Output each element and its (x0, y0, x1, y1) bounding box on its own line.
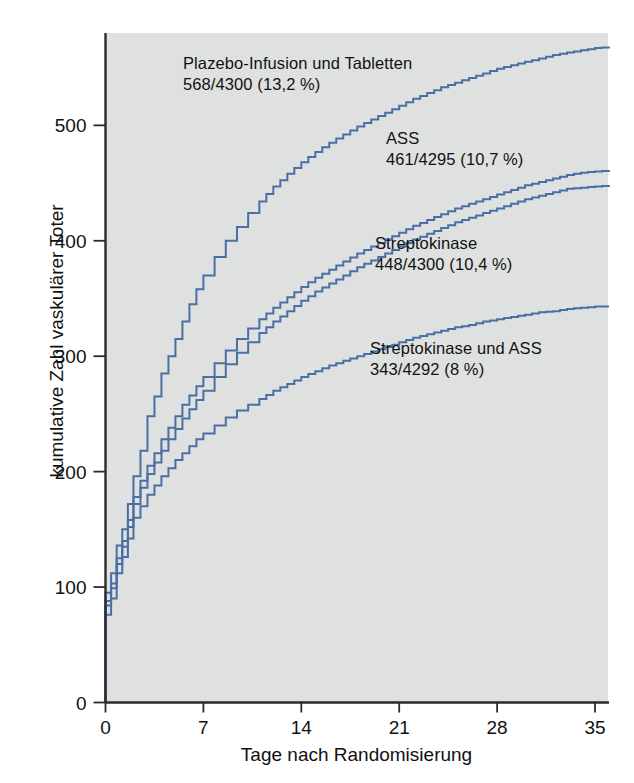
annotation-placebo-line2: 568/4300 (13,2 %) (183, 74, 412, 95)
annotation-placebo-line1: Plazebo-Infusion und Tabletten (183, 53, 412, 74)
x-axis-title: Tage nach Randomisierung (105, 744, 608, 766)
annotation-streptokinase-ass-line1: Streptokinase und ASS (370, 338, 542, 359)
x-tick-label-35: 35 (584, 717, 605, 738)
axis-ticks (94, 125, 596, 712)
series-annotation-streptokinase: Streptokinase 448/4300 (10,4 %) (375, 233, 512, 275)
annotation-ass-line2: 461/4295 (10,7 %) (386, 149, 523, 170)
x-tick-label-21: 21 (389, 717, 410, 738)
chart-canvas: 01002003004005000714212835 (0, 0, 634, 783)
annotation-streptokinase-ass-line2: 343/4292 (8 %) (370, 359, 542, 380)
series-annotation-streptokinase-ass: Streptokinase und ASS 343/4292 (8 %) (370, 338, 542, 380)
axis-tick-labels: 01002003004005000714212835 (55, 115, 606, 737)
series-line-2 (106, 185, 610, 702)
annotation-ass-line1: ASS (386, 128, 523, 149)
y-tick-label-500: 500 (55, 115, 87, 136)
chart-figure: 01002003004005000714212835 kumulative Za… (0, 0, 634, 783)
x-tick-label-0: 0 (100, 717, 111, 738)
x-tick-label-7: 7 (198, 717, 209, 738)
x-tick-label-14: 14 (291, 717, 313, 738)
annotation-streptokinase-line2: 448/4300 (10,4 %) (375, 254, 512, 275)
series-line-1 (106, 170, 610, 702)
y-axis-title: kumulative Zahl vaskulärer Toter (46, 191, 68, 491)
series-annotation-placebo: Plazebo-Infusion und Tabletten 568/4300 … (183, 53, 412, 95)
x-tick-label-28: 28 (487, 717, 508, 738)
y-tick-label-100: 100 (55, 577, 87, 598)
series-annotation-ass: ASS 461/4295 (10,7 %) (386, 128, 523, 170)
annotation-streptokinase-line1: Streptokinase (375, 233, 512, 254)
y-tick-label-0: 0 (76, 693, 87, 714)
